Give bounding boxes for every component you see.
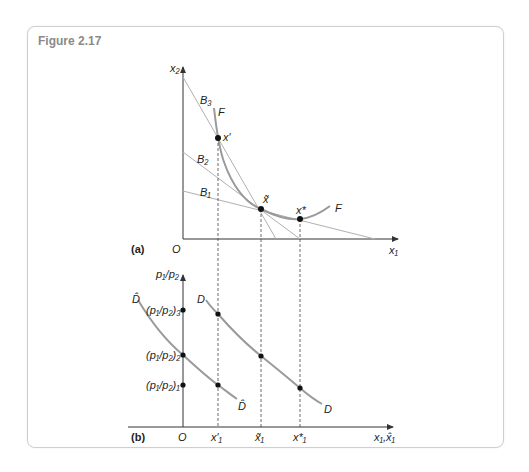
panel-a-x-axis-label: x₁: [388, 244, 399, 256]
panel-b-x-axis-label: x₁,x̂₁: [373, 431, 396, 443]
point-d-x-prime: [215, 311, 220, 316]
point-p1: [180, 382, 185, 387]
tick-x-star: x*₁: [292, 431, 307, 443]
label-x-prime: x′: [222, 131, 232, 143]
panel-b: p₁/p₂ D̂ D D̂ D (p₁/p₂)₃ (p₁/p₂)₂ (p₁/p₂…: [128, 268, 396, 443]
point-dhat-x-prime: [215, 382, 220, 387]
label-p3: (p₁/p₂)₃: [146, 304, 181, 316]
point-d-x-tilde: [258, 353, 263, 358]
label-b3: B₃: [200, 94, 212, 106]
budget-line-b1: [183, 191, 375, 239]
diagram: x₂ x₁ B₃ B₂ B₁ F F x′ x̃ x* (a) O p₁/p₂ …: [0, 0, 529, 472]
panel-a: x₂ x₁ B₃ B₂ B₁ F F x′ x̃ x* (a) O: [131, 62, 399, 427]
point-p3: [180, 307, 185, 312]
label-d-hat-bottom: D̂: [238, 399, 246, 412]
panel-b-y-axis-label: p₁/p₂: [155, 268, 180, 280]
tick-x-prime: x′₁: [210, 431, 223, 443]
f-curve: [214, 108, 330, 219]
panel-a-label: (a): [131, 243, 145, 255]
tick-x-tilde: x̃₁: [254, 431, 265, 443]
label-b1: B₁: [200, 186, 211, 198]
label-d-hat-top: D̂: [132, 292, 140, 305]
point-d-x-star: [297, 385, 302, 390]
label-f-top: F: [218, 106, 226, 118]
panel-b-origin: O: [178, 431, 187, 443]
label-x-star: x*: [295, 204, 307, 216]
panel-a-origin: O: [172, 243, 181, 255]
label-f-right: F: [335, 202, 343, 214]
label-x-tilde: x̃: [262, 193, 269, 205]
point-p2: [180, 352, 185, 357]
panel-b-label: (b): [131, 431, 145, 443]
point-x-star: [297, 216, 303, 222]
label-b2: B₂: [197, 153, 209, 165]
label-d-top: D: [197, 293, 205, 305]
label-d-bottom: D: [324, 403, 332, 415]
label-p1: (p₁/p₂)₁: [146, 379, 180, 391]
panel-a-y-axis-label: x₂: [169, 62, 181, 74]
point-x-tilde: [258, 206, 264, 212]
label-p2: (p₁/p₂)₂: [146, 349, 181, 361]
point-x-prime: [215, 135, 221, 141]
